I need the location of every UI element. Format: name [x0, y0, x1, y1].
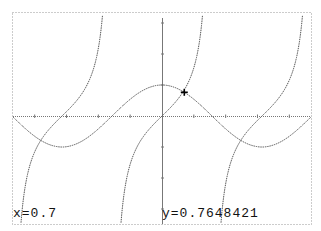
axes	[13, 18, 311, 224]
graph-screen: x=0.7 y=0.7648421	[0, 0, 321, 231]
trace-cursor-icon[interactable]	[181, 89, 188, 96]
x-value-readout: x=0.7	[13, 207, 57, 221]
graph-plot	[0, 0, 321, 231]
y-value-readout: y=0.7648421	[162, 207, 259, 221]
tan-curve	[21, 15, 303, 223]
